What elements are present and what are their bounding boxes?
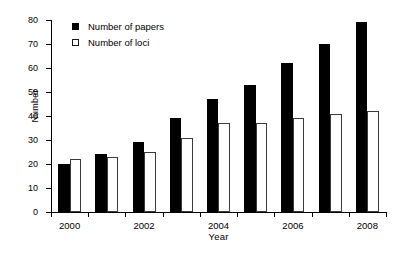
bar-loci-2001: [107, 157, 119, 212]
bar-papers-2003: [170, 118, 182, 212]
x-tick: [200, 212, 201, 217]
y-axis-title: Number: [30, 66, 40, 146]
x-tick-label: 2000: [50, 220, 90, 231]
y-tick-label: 80: [8, 20, 38, 21]
bar-loci-2002: [144, 152, 156, 212]
x-tick: [51, 212, 52, 217]
y-tick: 20: [46, 164, 51, 165]
y-tick: 10: [46, 188, 51, 189]
x-tick-label: 2008: [347, 220, 387, 231]
y-axis-line: [51, 20, 52, 212]
y-tick: 60: [46, 68, 51, 69]
x-tick-label: 2006: [273, 220, 313, 231]
legend-label: Number of papers: [88, 21, 164, 32]
x-tick: [237, 212, 238, 217]
y-tick: 50: [46, 92, 51, 93]
x-axis-line: [51, 212, 386, 213]
bar-loci-2005: [256, 123, 268, 212]
y-tick: 30: [46, 140, 51, 141]
bar-loci-2003: [181, 138, 193, 212]
bar-papers-2001: [95, 154, 107, 212]
bar-chart-figure: Number 01020304050607080 200020022004200…: [0, 0, 417, 259]
y-tick: 70: [46, 44, 51, 45]
bar-group: [356, 20, 379, 212]
x-tick: [274, 212, 275, 217]
x-tick: [386, 212, 387, 217]
bar-group: [170, 20, 193, 212]
y-tick-label: 70: [8, 44, 38, 45]
x-tick: [349, 212, 350, 217]
bar-papers-2006: [281, 63, 293, 212]
bar-papers-2005: [244, 85, 256, 212]
bar-group: [281, 20, 304, 212]
x-tick: [125, 212, 126, 217]
legend-label: Number of loci: [88, 37, 149, 48]
bar-loci-2000: [70, 159, 82, 212]
y-tick: 80: [46, 20, 51, 21]
bar-group: [319, 20, 342, 212]
bar-group: [244, 20, 267, 212]
bar-papers-2004: [207, 99, 219, 212]
x-tick: [312, 212, 313, 217]
bar-loci-2008: [367, 111, 379, 212]
x-tick-label: 2004: [199, 220, 239, 231]
x-tick-label: 2002: [124, 220, 164, 231]
chart-legend: Number of papersNumber of loci: [72, 18, 164, 50]
y-tick-label: 10: [8, 188, 38, 189]
filled-square-icon: [72, 23, 79, 30]
bar-loci-2004: [218, 123, 230, 212]
y-tick-label: 20: [8, 164, 38, 165]
y-tick-label: 0: [8, 212, 38, 213]
bar-papers-2007: [319, 44, 331, 212]
bar-papers-2008: [356, 22, 368, 212]
y-tick-label: 30: [8, 140, 38, 141]
bar-papers-2002: [133, 142, 145, 212]
x-axis-title: Year: [51, 231, 386, 242]
open-square-icon: [72, 39, 79, 46]
legend-entry: Number of loci: [72, 34, 164, 50]
bar-loci-2007: [330, 114, 342, 212]
y-tick-label: 50: [8, 92, 38, 93]
bar-group: [207, 20, 230, 212]
bar-loci-2006: [293, 118, 305, 212]
legend-entry: Number of papers: [72, 18, 164, 34]
x-tick: [88, 212, 89, 217]
y-tick: 40: [46, 116, 51, 117]
bar-papers-2000: [58, 164, 70, 212]
y-tick-label: 40: [8, 116, 38, 117]
x-tick: [163, 212, 164, 217]
y-tick-label: 60: [8, 68, 38, 69]
